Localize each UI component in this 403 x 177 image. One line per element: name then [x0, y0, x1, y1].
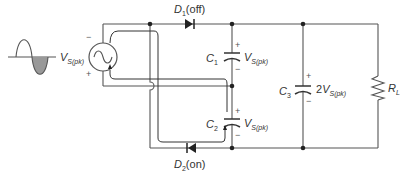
waveform-negative-half-fill	[32, 57, 48, 74]
c2-minus: −	[235, 130, 240, 140]
node-dot	[230, 146, 235, 151]
node-dot	[230, 84, 235, 89]
c2-plus: +	[235, 106, 240, 116]
c1-plus: +	[235, 40, 240, 50]
source-plus-sign: +	[86, 69, 91, 79]
node-dot	[230, 22, 235, 27]
load-resistor-zigzag	[372, 76, 384, 100]
d1-label: D1(off)	[174, 3, 205, 17]
d2-triangle	[188, 143, 196, 153]
c3-plus: +	[306, 71, 311, 81]
node-dot	[301, 22, 306, 27]
ac-source	[89, 43, 117, 71]
source-minus-sign: −	[86, 32, 91, 42]
c2-voltage: VS(pk)	[244, 117, 268, 132]
current-path-loop	[110, 70, 227, 112]
c3-minus: −	[306, 96, 311, 106]
node-dot	[148, 22, 153, 27]
d1-triangle	[185, 19, 193, 29]
rl-label: RL	[388, 82, 400, 96]
c2-label: C2	[206, 118, 218, 132]
voltage-doubler-diagram: VS(pk) − + D1(off)	[0, 0, 403, 177]
c3-label: C3	[279, 85, 291, 99]
node-dot	[301, 146, 306, 151]
circuit-wires	[103, 24, 378, 148]
d2-label: D2(on)	[174, 158, 205, 172]
source-label: VS(pk)	[60, 51, 84, 66]
input-waveform	[8, 40, 56, 75]
c1-label: C1	[206, 52, 218, 66]
c1-minus: −	[235, 64, 240, 74]
c3-voltage: 2VS(pk)	[316, 83, 346, 98]
c1-voltage: VS(pk)	[244, 51, 268, 66]
diode-d2	[187, 143, 196, 153]
diode-d1	[185, 19, 194, 29]
